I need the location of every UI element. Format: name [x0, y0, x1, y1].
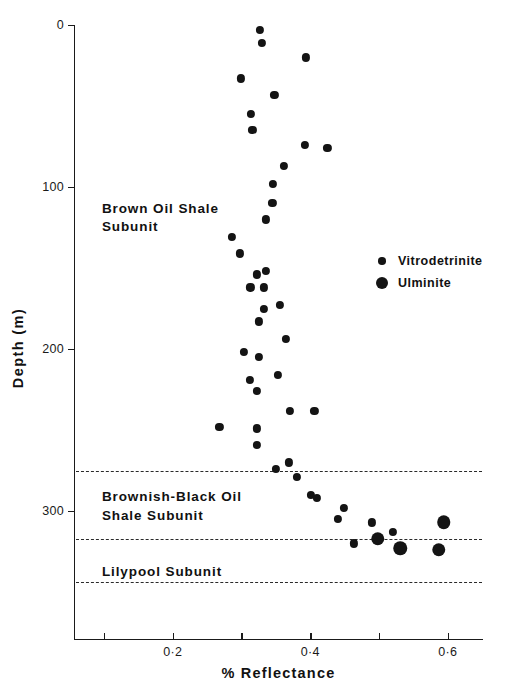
data-point-vitro	[269, 180, 277, 188]
data-point-vitro	[258, 39, 266, 47]
x-axis-tick-label: 0·4	[301, 645, 320, 659]
data-point-vitro	[272, 465, 280, 473]
data-point-vitro	[285, 458, 293, 466]
y-axis-tick	[68, 511, 75, 512]
subunit-boundary-line	[76, 582, 482, 583]
x-axis-title: % Reflectance	[74, 665, 483, 681]
data-point-vitro	[255, 317, 263, 325]
y-axis-tick	[68, 25, 75, 26]
data-point-vitro	[236, 249, 244, 257]
data-point-vitro	[286, 406, 294, 414]
legend-item-ulminite: Ulminite	[372, 272, 483, 294]
x-axis-tick-label: 0·6	[438, 645, 457, 659]
subunit-boundary-line	[76, 539, 482, 540]
y-axis-tick	[68, 187, 75, 188]
legend-label-ulminite: Ulminite	[398, 276, 451, 290]
y-axis-tick	[68, 349, 75, 350]
data-point-vitro	[261, 215, 269, 223]
data-point-vitro	[368, 518, 376, 526]
data-point-vitro	[246, 283, 254, 291]
x-axis-line	[74, 639, 483, 640]
reflectance-depth-scatter-figure: 0·20·40·60100200300 Brown Oil Shale Subu…	[0, 0, 520, 695]
y-axis-tick-label: 100	[20, 180, 64, 194]
data-point-vitro	[301, 141, 309, 149]
data-point-vitro	[253, 424, 261, 432]
subunit-label: Brownish-Black Oil Shale Subunit	[102, 488, 242, 525]
data-point-vitro	[237, 74, 245, 82]
data-point-vitro	[260, 304, 268, 312]
subunit-label: Brown Oil Shale Subunit	[102, 200, 219, 237]
data-point-vitro	[239, 348, 247, 356]
x-axis-tick	[310, 633, 311, 640]
data-point-vitro	[389, 528, 397, 536]
x-axis-tick	[448, 633, 449, 640]
data-point-vitro	[310, 406, 318, 414]
data-point-vitro	[253, 440, 261, 448]
y-axis-tick-label: 200	[20, 342, 64, 356]
x-axis-tick-label: 0·2	[163, 645, 182, 659]
y-axis-tick-label: 300	[20, 504, 64, 518]
data-point-vitro	[340, 504, 348, 512]
data-point-vitro	[253, 270, 261, 278]
subunit-label: Lilypool Subunit	[102, 563, 222, 582]
data-point-vitro	[256, 26, 264, 34]
y-axis-tick-label: 0	[20, 18, 64, 32]
y-axis-line	[74, 25, 75, 640]
data-point-vitro	[268, 199, 276, 207]
data-point-vitro	[334, 515, 342, 523]
data-point-vitro	[228, 233, 236, 241]
data-point-ulmin	[432, 543, 446, 557]
small-filled-circle-icon	[372, 257, 392, 265]
x-axis-tick	[104, 633, 105, 640]
data-point-vitro	[282, 335, 290, 343]
data-point-vitro	[247, 110, 255, 118]
x-axis-tick	[379, 633, 380, 640]
data-point-vitro	[280, 162, 288, 170]
data-point-vitro	[246, 376, 254, 384]
legend-item-vitrodetrinite: Vitrodetrinite	[372, 250, 483, 272]
data-point-vitro	[248, 126, 256, 134]
y-axis-title: Depth (m)	[10, 293, 26, 403]
data-point-ulmin	[371, 532, 385, 546]
legend-label-vitrodetrinite: Vitrodetrinite	[398, 254, 483, 268]
data-point-vitro	[302, 53, 310, 61]
large-filled-circle-icon	[372, 277, 392, 290]
data-point-vitro	[261, 267, 269, 275]
x-axis-tick	[173, 633, 174, 640]
data-point-vitro	[255, 353, 263, 361]
data-point-ulmin	[437, 516, 451, 530]
data-point-vitro	[323, 144, 331, 152]
data-point-vitro	[274, 371, 282, 379]
legend: Vitrodetrinite Ulminite	[372, 250, 483, 294]
data-point-vitro	[270, 91, 278, 99]
data-point-vitro	[293, 473, 301, 481]
data-point-vitro	[253, 387, 261, 395]
data-point-vitro	[260, 283, 268, 291]
data-point-vitro	[276, 301, 284, 309]
data-point-vitro	[215, 423, 223, 431]
data-point-vitro	[350, 539, 358, 547]
x-axis-tick	[241, 633, 242, 640]
data-point-vitro	[313, 494, 321, 502]
data-point-ulmin	[394, 542, 408, 556]
